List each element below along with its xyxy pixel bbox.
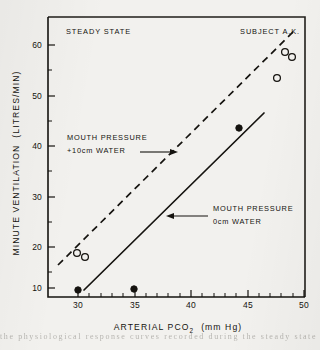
x-tick-label: 40 bbox=[186, 300, 196, 310]
y-tick-label: 60 bbox=[32, 40, 42, 50]
y-tick-label: 50 bbox=[32, 91, 42, 101]
annotation-plus-ten-line1: MOUTH PRESSURE bbox=[67, 133, 147, 142]
svg-text:MINUTE VENTILATION (LITRES/MI: MINUTE VENTILATION (LITRES/MIN) bbox=[11, 71, 21, 256]
annotation-zero-arrowhead bbox=[166, 213, 174, 219]
data-point-filled bbox=[236, 125, 242, 131]
x-tick-label: 45 bbox=[243, 300, 253, 310]
annotation-zero-line1: MOUTH PRESSURE bbox=[213, 204, 293, 213]
scatter-plot: 60 50 40 30 20 10 bbox=[0, 0, 320, 350]
y-tick-label: 40 bbox=[32, 141, 42, 151]
y-axis-title: MINUTE VENTILATION (LITRES/MIN) bbox=[11, 71, 21, 256]
annotation-plus-ten-line2: +10cm WATER bbox=[67, 146, 126, 155]
x-axis-ticks bbox=[78, 290, 304, 297]
figure-panel: 60 50 40 30 20 10 bbox=[0, 0, 320, 350]
caption-fragment: the physiological response curves record… bbox=[0, 332, 320, 350]
y-tick-label: 10 bbox=[32, 283, 42, 293]
x-axis-title-main: ARTERIAL PCO bbox=[114, 322, 190, 332]
data-point-filled bbox=[131, 286, 137, 292]
annotation-zero-line2: 0cm WATER bbox=[213, 217, 262, 226]
y-tick-label: 30 bbox=[32, 192, 42, 202]
annotation-plus-ten-arrowhead bbox=[170, 149, 178, 155]
y-axis-ticks bbox=[48, 45, 55, 288]
data-point-open bbox=[289, 54, 296, 61]
annotation-zero: MOUTH PRESSURE 0cm WATER bbox=[166, 204, 293, 226]
x-tick-label: 50 bbox=[299, 300, 309, 310]
x-axis-tick-labels: 30 35 40 45 50 bbox=[73, 300, 309, 310]
annotation-plus-ten: MOUTH PRESSURE +10cm WATER bbox=[67, 133, 178, 155]
data-point-open bbox=[282, 49, 289, 56]
x-tick-label: 30 bbox=[73, 300, 83, 310]
y-axis-title-units: (LITRES/MIN) bbox=[11, 71, 21, 138]
x-axis-title-units: (mm Hg) bbox=[201, 322, 242, 332]
y-axis-tick-labels: 60 50 40 30 20 10 bbox=[32, 40, 42, 293]
data-point-open bbox=[74, 250, 81, 257]
y-axis-title-main: MINUTE VENTILATION bbox=[11, 145, 21, 256]
x-tick-label: 35 bbox=[130, 300, 140, 310]
data-point-open bbox=[82, 254, 89, 261]
data-point-filled bbox=[75, 287, 81, 293]
data-point-open bbox=[274, 75, 281, 82]
y-tick-label: 20 bbox=[32, 242, 42, 252]
steady-state-label: STEADY STATE bbox=[66, 27, 131, 36]
